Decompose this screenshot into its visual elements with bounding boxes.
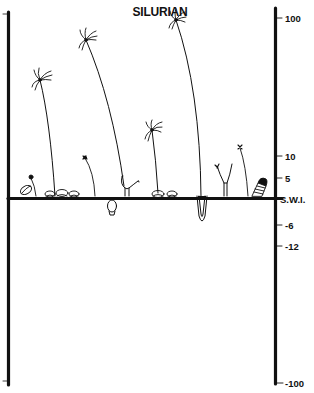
axis-label-minus-6: -6 [285,220,293,231]
small-stalked-organism-icon [238,145,248,196]
conical-organism-icon [252,178,267,196]
shell-cluster-icon [152,191,177,198]
axis-label-minus-12: -12 [285,241,299,252]
crinoid-icon [79,28,124,186]
burrower-icon [197,196,207,221]
branching-organism-icon [215,164,232,196]
crinoid-icon [32,68,55,196]
tiering-diagram [0,0,314,393]
infaunal-shell-icon [108,200,117,215]
crinoid-icon [145,120,162,193]
small-stalked-organism-icon [83,156,95,196]
axis-label-5: 5 [285,173,290,184]
crinoid-icon [169,9,201,196]
shell-cluster-icon [19,184,79,197]
axis-label-minus-100: -100 [285,378,304,389]
axis-label-swi: S.W.I. [280,194,305,205]
axis-label-10: 10 [285,151,296,162]
axis-label-100: 100 [285,13,301,24]
